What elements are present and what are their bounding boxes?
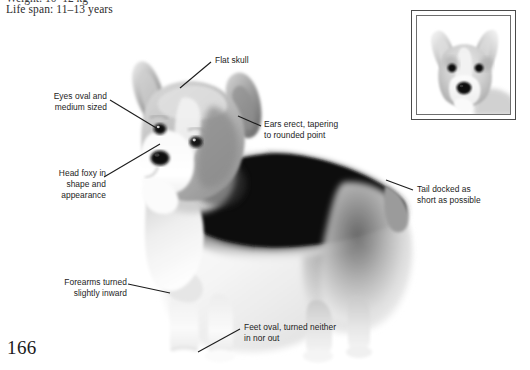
page-number: 166 <box>7 337 37 359</box>
inset-photo-frame <box>411 10 516 120</box>
callout-feet: Feet oval, turned neither in nor out <box>244 322 336 344</box>
callout-flat-skull: Flat skull <box>215 55 249 66</box>
inset-photo <box>416 15 511 115</box>
inset-nose <box>457 82 472 94</box>
callout-ears: Ears erect, tapering to rounded point <box>264 119 338 141</box>
callout-tail: Tail docked as short as possible <box>417 184 481 206</box>
callout-forearms: Forearms turned slightly inward <box>0 277 127 299</box>
nose <box>151 151 170 166</box>
callout-head-foxy: Head foxy in shape and appearance <box>0 168 106 201</box>
figure-page: Weight: 10–12 kg Life span: 11–13 years <box>0 0 530 370</box>
callout-eyes: Eyes oval and medium sized <box>0 91 107 113</box>
